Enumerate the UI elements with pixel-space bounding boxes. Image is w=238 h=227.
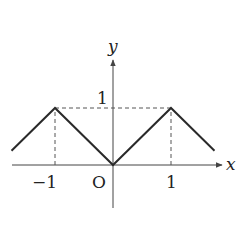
x-tick-neg1: −1 xyxy=(32,172,57,192)
y-axis-label: y xyxy=(107,36,118,56)
origin-label: O xyxy=(92,172,106,192)
x-tick-1: 1 xyxy=(166,172,177,192)
y-tick-1: 1 xyxy=(97,88,108,108)
function-graph: y x 1 O −1 1 xyxy=(0,0,238,227)
x-axis-label: x xyxy=(226,154,236,174)
